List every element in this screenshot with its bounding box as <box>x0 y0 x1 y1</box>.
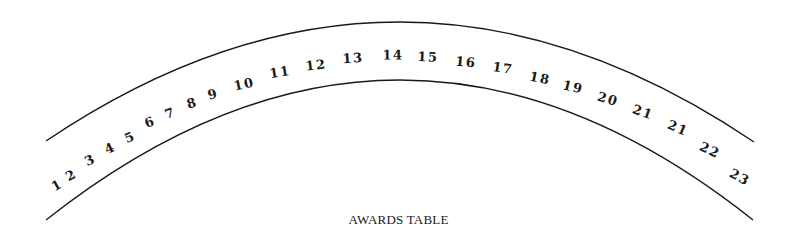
seat-number: 14 <box>382 47 403 62</box>
seat-number: 10 <box>232 74 256 93</box>
seat-number: 3 <box>82 151 98 169</box>
seat-number: 18 <box>528 69 552 88</box>
seat-number: 11 <box>268 63 291 81</box>
awards-table-diagram: 123456789101112131415161718192021212223 <box>0 0 797 243</box>
seat-number: 21 <box>631 101 656 122</box>
seat-number: 16 <box>455 54 477 71</box>
seat-number: 21 <box>665 117 690 139</box>
diagram-caption: AWARDS TABLE <box>0 212 797 228</box>
seat-number: 17 <box>492 59 515 77</box>
seat-number: 20 <box>596 89 620 109</box>
seat-number: 7 <box>163 104 178 122</box>
seat-number: 6 <box>142 113 157 131</box>
seat-number: 15 <box>417 49 439 65</box>
seat-number: 12 <box>305 56 328 73</box>
seat-number: 8 <box>185 94 199 111</box>
seat-number: 4 <box>102 139 118 157</box>
seat-number: 19 <box>561 77 585 97</box>
table-inner-edge <box>46 80 753 220</box>
seat-number: 2 <box>63 166 79 184</box>
seat-number: 5 <box>122 128 137 146</box>
seat-number: 13 <box>342 50 364 66</box>
seat-number: 1 <box>49 176 66 194</box>
seat-number: 9 <box>206 85 220 102</box>
seat-number: 23 <box>727 165 753 188</box>
seat-number: 22 <box>697 139 722 162</box>
seat-number-list: 123456789101112131415161718192021212223 <box>49 47 753 194</box>
